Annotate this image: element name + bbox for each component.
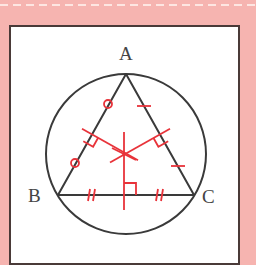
vertex-label-c: C xyxy=(202,186,215,207)
tick-bc-right-2 xyxy=(161,189,163,201)
tick-bc-left-2 xyxy=(93,189,95,201)
circumcenter-point xyxy=(122,152,126,156)
right-angle-bc xyxy=(124,183,136,195)
tick-bc-right-1 xyxy=(156,189,158,201)
tick-bc-left-1 xyxy=(88,189,90,201)
perpendicular-bisectors xyxy=(71,100,185,210)
vertex-label-a: A xyxy=(119,43,133,64)
triangle-abc xyxy=(58,74,194,195)
vertex-label-b: B xyxy=(28,185,41,206)
